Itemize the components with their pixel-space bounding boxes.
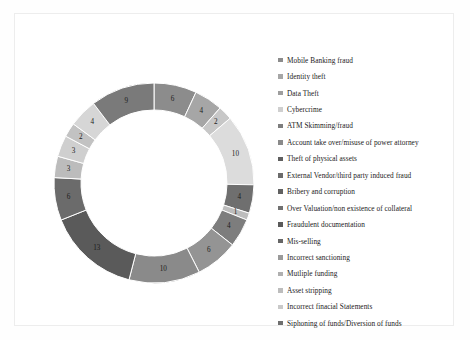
donut-slice-value-label: 6 (171, 95, 175, 103)
legend-item-label: Siphoning of funds/Diversion of funds (287, 319, 402, 328)
legend-item[interactable]: Account take over/misuse of power attorn… (277, 134, 470, 150)
chart-frame: 6421041461013633249 Mobile Banking fraud… (14, 13, 454, 326)
legend-item[interactable]: External Vendor/third party induced frau… (277, 167, 470, 183)
legend-item-label: Mobile Banking fraud (287, 56, 353, 65)
donut-slice-value-label: 4 (227, 222, 231, 230)
legend-item[interactable]: Identity theft (277, 68, 470, 84)
donut-slice-value-label: 2 (214, 118, 218, 126)
legend-swatch-icon (278, 58, 283, 63)
legend-swatch-icon (278, 107, 283, 112)
donut-slices (54, 83, 254, 283)
donut-slice-value-label: 3 (72, 147, 76, 155)
legend-item-label: Cybercrime (287, 105, 322, 114)
legend-swatch-icon (278, 124, 283, 129)
donut-slice-value-label: 6 (67, 193, 71, 201)
legend-item[interactable]: Over Valuation/non existence of collater… (277, 200, 470, 216)
legend-item-label: Mis-selling (287, 237, 321, 246)
legend-swatch-icon (278, 272, 283, 277)
donut-slice-value-label: 9 (125, 97, 129, 105)
legend-swatch-icon (278, 140, 283, 145)
donut-slice-value-label: 4 (238, 193, 242, 201)
legend-item[interactable]: Incorrect finacial Statements (277, 299, 470, 315)
legend-swatch-icon (278, 91, 283, 96)
legend-swatch-icon (278, 222, 283, 227)
legend-item-label: Theft of physical assets (287, 154, 357, 163)
legend-swatch-icon (278, 321, 283, 326)
legend-item[interactable]: ATM Skimming/fraud (277, 118, 470, 134)
donut-slice-value-label: 2 (79, 133, 83, 141)
legend-swatch-icon (278, 255, 283, 260)
donut-slice-value-label: 10 (232, 150, 240, 158)
legend-swatch-icon (278, 305, 283, 310)
legend-item-label: Data Theft (287, 89, 319, 98)
donut-slice-value-label: 3 (67, 165, 71, 173)
chart-legend: Mobile Banking fraudIdentity theftData T… (277, 52, 470, 331)
legend-swatch-icon (278, 189, 283, 194)
legend-swatch-icon (278, 173, 283, 178)
legend-item-label: Asset stripping (287, 286, 332, 295)
legend-swatch-icon (278, 288, 283, 293)
donut-slice-value-label: 10 (160, 265, 168, 273)
donut-slice-value-label: 4 (199, 107, 203, 115)
legend-item-label: Identity theft (287, 72, 326, 81)
donut-svg: 6421041461013633249 (41, 66, 267, 304)
legend-item[interactable]: Mobile Banking fraud (277, 52, 470, 68)
legend-swatch-icon (278, 157, 283, 162)
donut-slice-value-label: 6 (207, 246, 211, 254)
legend-item-label: ATM Skimming/fraud (287, 121, 353, 130)
legend-swatch-icon (278, 239, 283, 244)
donut-slice-value-label: 4 (90, 118, 94, 126)
legend-item[interactable]: Bribery and corruption (277, 184, 470, 200)
legend-item-label: Account take over/misuse of power attorn… (287, 138, 419, 147)
legend-item-label: Incorrect sanctioning (287, 253, 350, 262)
legend-swatch-icon (278, 74, 283, 79)
legend-item-label: External Vendor/third party induced frau… (287, 171, 411, 180)
donut-slice-value-label: 13 (93, 244, 101, 252)
legend-item[interactable]: Fraudulent documentation (277, 216, 470, 232)
legend-item[interactable]: Mutliple funding (277, 266, 470, 282)
chart-page: 6421041461013633249 Mobile Banking fraud… (0, 0, 470, 340)
legend-item[interactable]: Incorrect sanctioning (277, 249, 470, 265)
legend-item[interactable]: Asset stripping (277, 282, 470, 298)
donut-chart: 6421041461013633249 (41, 66, 267, 304)
legend-item[interactable]: Mis-selling (277, 233, 470, 249)
legend-item[interactable]: Theft of physical assets (277, 151, 470, 167)
legend-item[interactable]: Data Theft (277, 85, 470, 101)
legend-item-label: Mutliple funding (287, 269, 337, 278)
donut-slice-value-label: 1 (234, 208, 238, 216)
legend-item[interactable]: Siphoning of funds/Diversion of funds (277, 315, 470, 331)
legend-item-label: Fraudulent documentation (287, 220, 365, 229)
legend-item-label: Incorrect finacial Statements (287, 302, 372, 311)
legend-item-label: Bribery and corruption (287, 187, 355, 196)
legend-swatch-icon (278, 206, 283, 211)
legend-item-label: Over Valuation/non existence of collater… (287, 204, 412, 213)
legend-item[interactable]: Cybercrime (277, 101, 470, 117)
